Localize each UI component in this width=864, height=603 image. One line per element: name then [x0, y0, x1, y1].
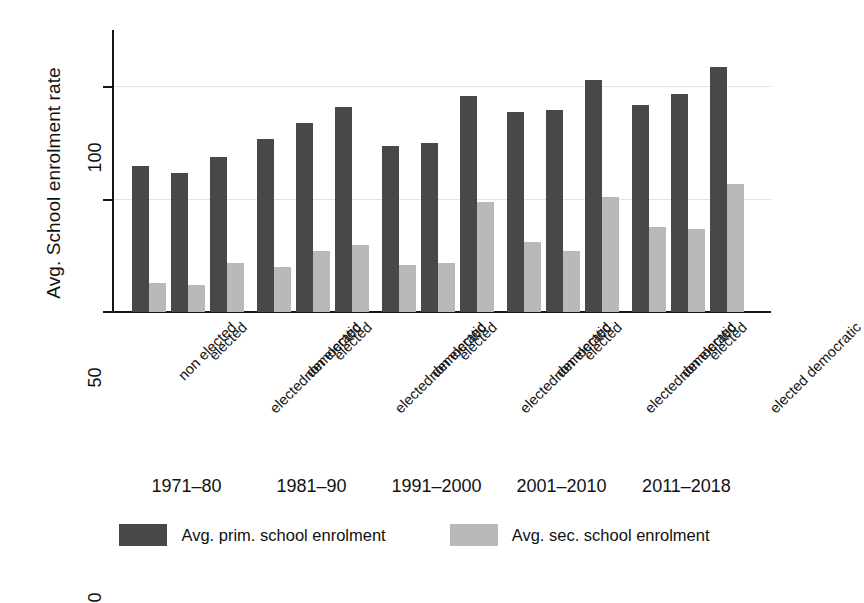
bar-secondary-enrolment — [477, 202, 494, 312]
y-axis-tick: 0 — [103, 311, 113, 313]
bar-primary-enrolment — [460, 96, 477, 312]
y-axis-tick-label: 100 — [85, 143, 106, 173]
bar-primary-enrolment — [632, 105, 649, 312]
y-axis-line — [112, 30, 114, 313]
bar-primary-enrolment — [507, 112, 524, 312]
bar-secondary-enrolment — [727, 184, 744, 312]
x-axis-group-label: 1991–2000 — [391, 476, 481, 497]
bar-secondary-enrolment — [602, 197, 619, 312]
y-axis-tick: 100 — [103, 86, 113, 88]
bar-secondary-enrolment — [399, 265, 416, 312]
bar-secondary-enrolment — [352, 245, 369, 312]
bar-primary-enrolment — [257, 139, 274, 312]
bar-secondary-enrolment — [227, 263, 244, 312]
legend-swatch-secondary-icon — [450, 524, 498, 546]
y-axis-tick: 50 — [103, 199, 113, 201]
bar-secondary-enrolment — [688, 229, 705, 312]
bar-primary-enrolment — [585, 80, 602, 312]
legend-item-secondary: Avg. sec. school enrolment — [450, 524, 710, 546]
legend-item-primary: Avg. prim. school enrolment — [119, 524, 385, 546]
x-axis-category-label: elected democratic — [767, 319, 864, 416]
y-axis-tick-label: 0 — [85, 593, 106, 603]
x-axis-group-label: 1971–80 — [151, 476, 221, 497]
x-axis-group-label: 2011–2018 — [642, 476, 731, 497]
x-axis-group-label: 2001–2010 — [516, 476, 606, 497]
bar-secondary-enrolment — [149, 283, 166, 312]
plot-area: 050100 — [112, 30, 772, 312]
bar-primary-enrolment — [296, 123, 313, 312]
gridline — [114, 86, 771, 87]
legend-swatch-primary-icon — [119, 524, 167, 546]
bar-secondary-enrolment — [274, 267, 291, 312]
bar-secondary-enrolment — [438, 263, 455, 312]
bar-secondary-enrolment — [649, 227, 666, 312]
bar-secondary-enrolment — [524, 242, 541, 312]
bar-secondary-enrolment — [188, 285, 205, 312]
bar-primary-enrolment — [671, 94, 688, 312]
y-axis-title: Avg. School enrolment rate — [43, 33, 65, 333]
bar-primary-enrolment — [132, 166, 149, 312]
bar-secondary-enrolment — [313, 251, 330, 312]
bar-primary-enrolment — [171, 173, 188, 312]
bar-primary-enrolment — [335, 107, 352, 312]
bar-primary-enrolment — [710, 67, 727, 312]
y-axis-tick-label: 50 — [85, 368, 106, 388]
bar-primary-enrolment — [382, 146, 399, 312]
legend-label-primary: Avg. prim. school enrolment — [181, 526, 385, 545]
legend-label-secondary: Avg. sec. school enrolment — [512, 526, 710, 545]
bar-primary-enrolment — [421, 143, 438, 312]
bar-secondary-enrolment — [563, 251, 580, 312]
chart-legend: Avg. prim. school enrolment Avg. sec. sc… — [0, 524, 829, 546]
bar-primary-enrolment — [546, 110, 563, 312]
x-axis-group-label: 1981–90 — [276, 476, 346, 497]
bar-primary-enrolment — [210, 157, 227, 312]
